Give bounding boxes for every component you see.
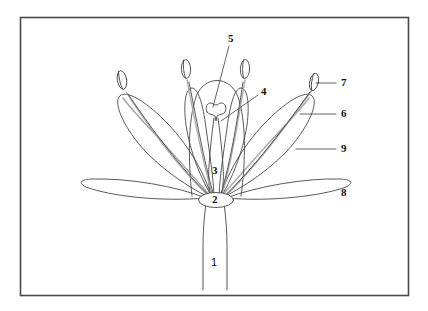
label-3-corolla: 3 [212, 165, 218, 176]
figure-border [21, 18, 409, 296]
label-5-stigma: 5 [228, 33, 234, 44]
flower-diagram-figure: 1 2 3 4 5 6 7 8 9 [0, 0, 428, 311]
label-1-pedicel: 1 [211, 257, 217, 268]
label-9-filament: 9 [341, 143, 347, 154]
label-4-style: 4 [261, 86, 267, 97]
label-7-anther: 7 [341, 77, 347, 88]
label-8-sepal: 8 [341, 187, 347, 198]
label-2-receptacle: 2 [212, 194, 218, 205]
label-6-petal: 6 [341, 108, 347, 119]
